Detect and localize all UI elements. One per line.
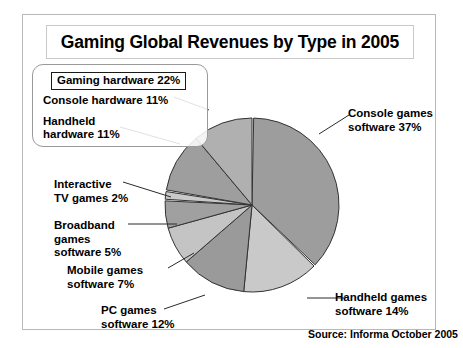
callout-console-games-software: Console games software 37% <box>348 107 433 134</box>
callout-pc-games-software: PC games software 12% <box>101 304 175 331</box>
console-hardware-label: Console hardware 11% <box>43 93 168 107</box>
gaming-hardware-total-label: Gaming hardware 22% <box>51 72 186 90</box>
callout-handheld-games-software: Handheld games software 14% <box>335 291 427 318</box>
callout-broadband-games-software: Broadband games software 5% <box>54 219 121 260</box>
slide-frame: Gaming Global Revenues by Type in 2005 G… <box>22 14 436 330</box>
callout-interactive-tv-games: Interactive TV games 2% <box>54 178 128 205</box>
handheld-hardware-label: Handheld hardware 11% <box>43 115 120 141</box>
callout-mobile-games-software: Mobile games software 7% <box>67 264 143 291</box>
source-note: Source: Informa October 2005 <box>308 328 458 340</box>
gaming-hardware-group-box: Gaming hardware 22% Console hardware 11%… <box>32 64 208 147</box>
